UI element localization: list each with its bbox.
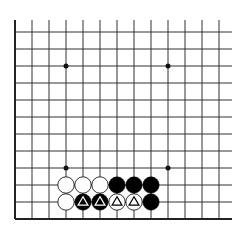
black-stone[interactable] [143, 177, 159, 193]
black-stone-icon [109, 177, 125, 193]
stones-layer [58, 177, 159, 210]
go-board[interactable] [0, 0, 239, 235]
white-stone-icon [58, 177, 74, 193]
black-stone[interactable] [75, 194, 91, 210]
white-stone-icon [58, 194, 74, 210]
white-stone[interactable] [126, 194, 142, 210]
black-stone-icon [143, 177, 159, 193]
white-stone[interactable] [58, 177, 74, 193]
black-stone[interactable] [143, 194, 159, 210]
white-stone[interactable] [109, 194, 125, 210]
white-stone[interactable] [58, 194, 74, 210]
white-stone-icon [92, 177, 108, 193]
black-stone[interactable] [92, 194, 108, 210]
star-point-icon [64, 166, 69, 171]
black-stone-icon [126, 177, 142, 193]
star-point-icon [64, 64, 69, 69]
black-stone[interactable] [126, 177, 142, 193]
white-stone[interactable] [92, 177, 108, 193]
star-point-icon [166, 64, 171, 69]
black-stone-icon [143, 194, 159, 210]
star-point-icon [166, 166, 171, 171]
black-stone[interactable] [109, 177, 125, 193]
white-stone[interactable] [75, 177, 91, 193]
white-stone-icon [75, 177, 91, 193]
